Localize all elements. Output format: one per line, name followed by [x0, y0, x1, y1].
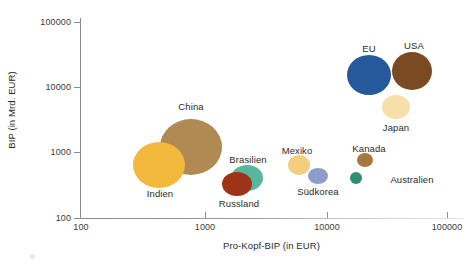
- bubble-russland[interactable]: [222, 172, 252, 196]
- x-axis-title: Pro-Kopf-BIP (in EUR): [80, 240, 463, 251]
- bubble-label-kanada: Kanada: [352, 143, 385, 154]
- y-tick-mark: [74, 87, 80, 88]
- bubble-label-brasilien: Brasilien: [229, 154, 266, 165]
- bubble-label-eu: EU: [362, 43, 375, 54]
- y-tick-label: 1000: [51, 147, 71, 157]
- x-tick-label: 100: [73, 222, 88, 232]
- bubble-japan[interactable]: [382, 95, 410, 119]
- bubble-mexiko[interactable]: [288, 155, 310, 175]
- scan-artifact: [30, 254, 35, 259]
- y-axis-line: [80, 18, 81, 218]
- bubble-label-china: China: [178, 101, 203, 112]
- y-tick-mark: [74, 218, 80, 219]
- x-tick-mark: [205, 212, 206, 218]
- y-tick-label: 100000: [40, 17, 71, 27]
- bubble-label-mexiko: Mexiko: [282, 145, 313, 156]
- bubble-label-australien: Australien: [390, 174, 433, 185]
- x-tick-label: 1000: [195, 222, 215, 232]
- bubble-chart: 100000100001000100 100100010000100000 BI…: [0, 0, 475, 266]
- bubble-label-s-dkorea: Südkorea: [297, 186, 338, 197]
- bubble-usa[interactable]: [392, 52, 432, 90]
- y-tick-mark: [74, 22, 80, 23]
- y-axis-title: BIP (in Mrd. EUR): [6, 10, 20, 210]
- bubble-kanada[interactable]: [357, 153, 373, 167]
- x-tick-mark: [327, 212, 328, 218]
- bubble-label-indien: Indien: [147, 188, 173, 199]
- bubble-label-russland: Russland: [219, 198, 259, 209]
- y-tick-label: 100: [56, 213, 71, 223]
- y-tick-mark: [74, 152, 80, 153]
- x-axis-line: [80, 218, 463, 219]
- bubble-eu[interactable]: [347, 55, 391, 95]
- bubble-australien[interactable]: [350, 172, 362, 184]
- x-tick-mark: [447, 212, 448, 218]
- bubble-label-japan: Japan: [383, 122, 409, 133]
- bubble-indien[interactable]: [133, 142, 185, 188]
- x-tick-label: 100000: [432, 222, 463, 232]
- bubble-s-dkorea[interactable]: [308, 168, 328, 184]
- bubble-label-usa: USA: [404, 40, 424, 51]
- x-tick-label: 10000: [314, 222, 340, 232]
- y-tick-label: 10000: [45, 82, 71, 92]
